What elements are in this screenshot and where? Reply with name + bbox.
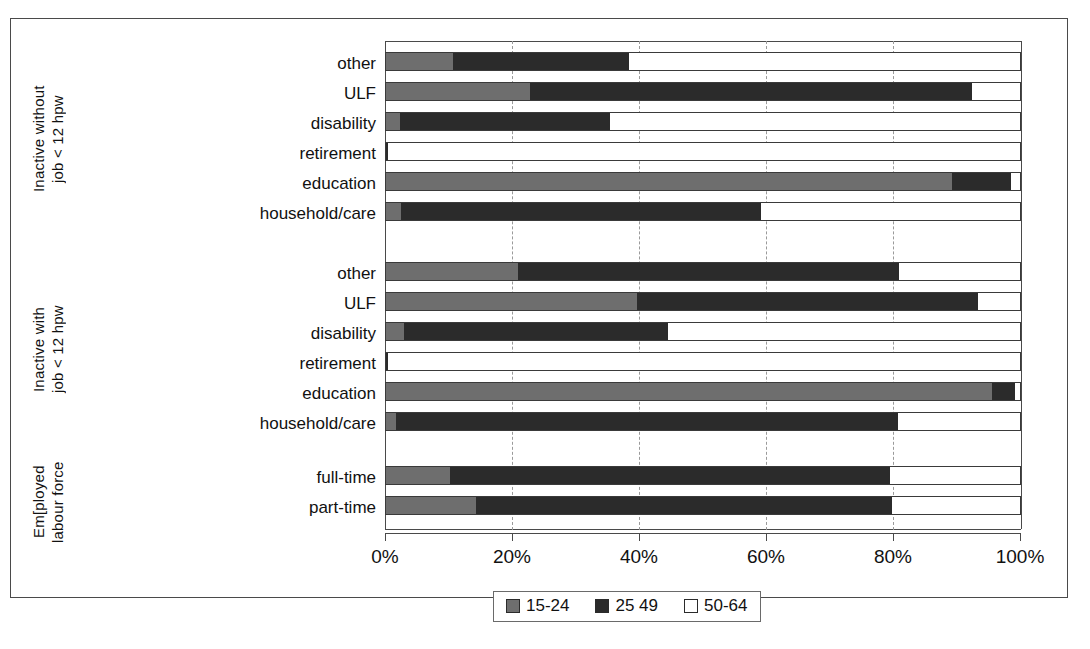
bar-segment-25-49 <box>993 383 1015 400</box>
bar-row <box>385 412 1021 431</box>
bar-segment-15-24 <box>386 293 638 310</box>
category-label: disability <box>136 325 376 342</box>
x-axis-tick <box>893 534 894 541</box>
bar-segment-25-49 <box>477 497 892 514</box>
bar-segment-50-64 <box>898 413 1020 430</box>
x-axis-tick-label: 100% <box>996 546 1045 568</box>
bar-segment-50-64 <box>1015 383 1020 400</box>
bar-segment-50-64 <box>388 353 1020 370</box>
x-axis-tick <box>385 534 386 541</box>
legend-label: 25 49 <box>615 596 658 616</box>
category-label-column: other ULF disability retirement educatio… <box>121 19 376 597</box>
bar-segment-50-64 <box>629 53 1020 70</box>
bar-segment-50-64 <box>610 113 1020 130</box>
x-axis-tick-label: 80% <box>874 546 912 568</box>
category-label: full-time <box>136 469 376 486</box>
bar-row <box>385 142 1021 161</box>
bar-segment-25-49 <box>531 83 972 100</box>
x-axis-tick-label: 0% <box>371 546 398 568</box>
bar-segment-50-64 <box>668 323 1020 340</box>
chart-frame: Inactive without job < 12 hpw Inactive w… <box>10 18 1068 598</box>
bar-segment-25-49 <box>638 293 978 310</box>
bar-segment-15-24 <box>386 83 531 100</box>
bar-row <box>385 52 1021 71</box>
x-axis-tick-label: 20% <box>493 546 531 568</box>
group-label-employed-labour-force: Em[ployed labour force <box>29 437 73 567</box>
x-axis-tick-label: 40% <box>620 546 658 568</box>
category-label: part-time <box>136 499 376 516</box>
group-label-inactive-with-job: Inactive with job < 12 hpw <box>29 254 73 444</box>
bar-segment-15-24 <box>386 383 993 400</box>
bar-segment-15-24 <box>386 173 953 190</box>
bar-segment-15-24 <box>386 467 451 484</box>
bar-segment-25-49 <box>519 263 899 280</box>
bar-segment-25-49 <box>402 203 760 220</box>
legend-swatch-icon <box>595 599 609 613</box>
x-axis-line <box>385 533 1021 534</box>
x-axis-tick <box>1020 534 1021 541</box>
bar-segment-15-24 <box>386 53 454 70</box>
bar-row <box>385 202 1021 221</box>
bar-segment-50-64 <box>761 203 1020 220</box>
bar-segment-25-49 <box>405 323 668 340</box>
category-label: retirement <box>136 145 376 162</box>
bar-segment-15-24 <box>386 263 519 280</box>
legend-swatch-icon <box>506 599 520 613</box>
category-label: education <box>136 385 376 402</box>
category-label: household/care <box>136 205 376 222</box>
legend-label: 15-24 <box>526 596 569 616</box>
legend-item-50-64: 50-64 <box>684 596 747 616</box>
legend-swatch-icon <box>684 599 698 613</box>
bar-row <box>385 292 1021 311</box>
legend-item-15-24: 15-24 <box>506 596 569 616</box>
bar-row <box>385 466 1021 485</box>
bar-segment-25-49 <box>397 413 898 430</box>
bar-segment-50-64 <box>899 263 1020 280</box>
bar-segment-15-24 <box>386 413 397 430</box>
x-axis-tick <box>639 534 640 541</box>
bar-segment-25-49 <box>451 467 890 484</box>
category-label: other <box>136 55 376 72</box>
bar-row <box>385 172 1021 191</box>
bar-segment-15-24 <box>386 203 402 220</box>
bar-segment-50-64 <box>388 143 1020 160</box>
plot-bottom-border <box>385 529 1021 530</box>
x-axis-tick <box>766 534 767 541</box>
bar-segment-25-49 <box>401 113 610 130</box>
bar-row <box>385 262 1021 281</box>
category-label: other <box>136 265 376 282</box>
bar-segment-25-49 <box>454 53 630 70</box>
category-label: ULF <box>136 295 376 312</box>
bar-segment-50-64 <box>972 83 1020 100</box>
bar-row <box>385 112 1021 131</box>
bar-segment-25-49 <box>953 173 1011 190</box>
bar-segment-15-24 <box>386 113 401 130</box>
bar-segment-50-64 <box>890 467 1020 484</box>
category-label: education <box>136 175 376 192</box>
bar-segment-15-24 <box>386 323 405 340</box>
legend: 15-24 25 49 50-64 <box>493 591 761 622</box>
group-label-inactive-without-job: Inactive without job < 12 hpw <box>29 39 73 239</box>
bar-row <box>385 382 1021 401</box>
bar-segment-50-64 <box>978 293 1020 310</box>
bar-row <box>385 496 1021 515</box>
legend-label: 50-64 <box>704 596 747 616</box>
bar-row <box>385 322 1021 341</box>
category-label: household/care <box>136 415 376 432</box>
x-axis-tick-label: 60% <box>747 546 785 568</box>
bar-row <box>385 352 1021 371</box>
category-label: disability <box>136 115 376 132</box>
category-label: ULF <box>136 85 376 102</box>
x-axis-tick <box>512 534 513 541</box>
bar-segment-50-64 <box>892 497 1020 514</box>
bar-row <box>385 82 1021 101</box>
legend-item-25-49: 25 49 <box>595 596 658 616</box>
category-label: retirement <box>136 355 376 372</box>
bar-segment-50-64 <box>1011 173 1020 190</box>
bar-segment-15-24 <box>386 497 477 514</box>
